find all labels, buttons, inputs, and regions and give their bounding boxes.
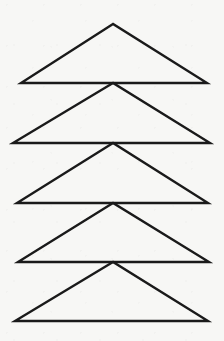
drawing-background [0, 0, 224, 341]
figure-canvas-container [0, 0, 224, 341]
stacked-triangles-drawing [0, 0, 224, 341]
